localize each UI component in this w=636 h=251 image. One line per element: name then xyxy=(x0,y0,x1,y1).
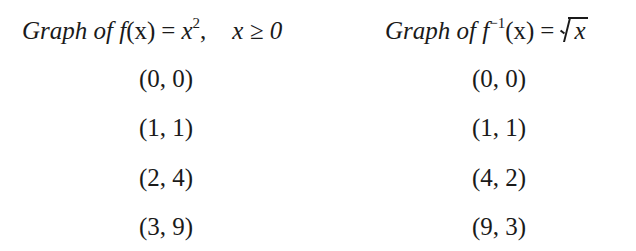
point-row: (0, 0) xyxy=(472,64,526,94)
point-row: (1, 1) xyxy=(472,113,526,143)
rhs-base: x xyxy=(181,17,192,44)
radicand: x xyxy=(574,17,585,44)
point-row: (2, 4) xyxy=(139,163,193,193)
heading-prefix: Graph of xyxy=(385,17,482,44)
point-row: (9, 3) xyxy=(472,212,526,242)
point-row: (3, 9) xyxy=(139,212,193,242)
function-argument: (x) xyxy=(126,17,155,44)
point-row: (1, 1) xyxy=(139,113,193,143)
inverse-exponent: −1 xyxy=(489,15,505,31)
square-root-symbol: x xyxy=(560,16,585,46)
rhs-exponent: 2 xyxy=(193,15,201,31)
point-row: (4, 2) xyxy=(472,163,526,193)
heading-prefix: Graph of xyxy=(22,17,119,44)
equals-sign: = xyxy=(161,17,175,44)
heading-comma: , xyxy=(200,17,206,44)
equals-sign: = xyxy=(540,17,554,44)
point-row: (0, 0) xyxy=(139,64,193,94)
inverse-function-heading: Graph of f−1(x)=x xyxy=(385,16,586,46)
function-argument: (x) xyxy=(505,17,534,44)
domain-condition: x ≥ 0 xyxy=(232,17,282,44)
function-heading: Graph of f(x)=x2,x ≥ 0 xyxy=(22,16,282,46)
